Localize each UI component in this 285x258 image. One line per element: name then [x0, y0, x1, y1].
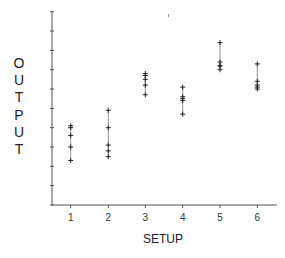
x-tick-label: 2	[98, 212, 118, 223]
y-label-letter: T	[12, 141, 26, 158]
x-tick-label: 5	[210, 212, 230, 223]
scan-artifact	[168, 14, 169, 17]
data-points	[68, 40, 260, 163]
y-label-letter: P	[12, 107, 26, 124]
x-tick-label: 3	[135, 212, 155, 223]
x-tick-label: 1	[61, 212, 81, 223]
x-axis-label: SETUP	[130, 232, 196, 246]
y-label-letter: O	[12, 55, 26, 72]
x-tick-label: 4	[173, 212, 193, 223]
y-axis-label: OUTPUT	[12, 55, 26, 158]
axes	[50, 12, 277, 208]
x-tick-label: 6	[247, 212, 267, 223]
y-label-letter: U	[12, 124, 26, 141]
y-label-letter: U	[12, 72, 26, 89]
y-label-letter: T	[12, 89, 26, 106]
